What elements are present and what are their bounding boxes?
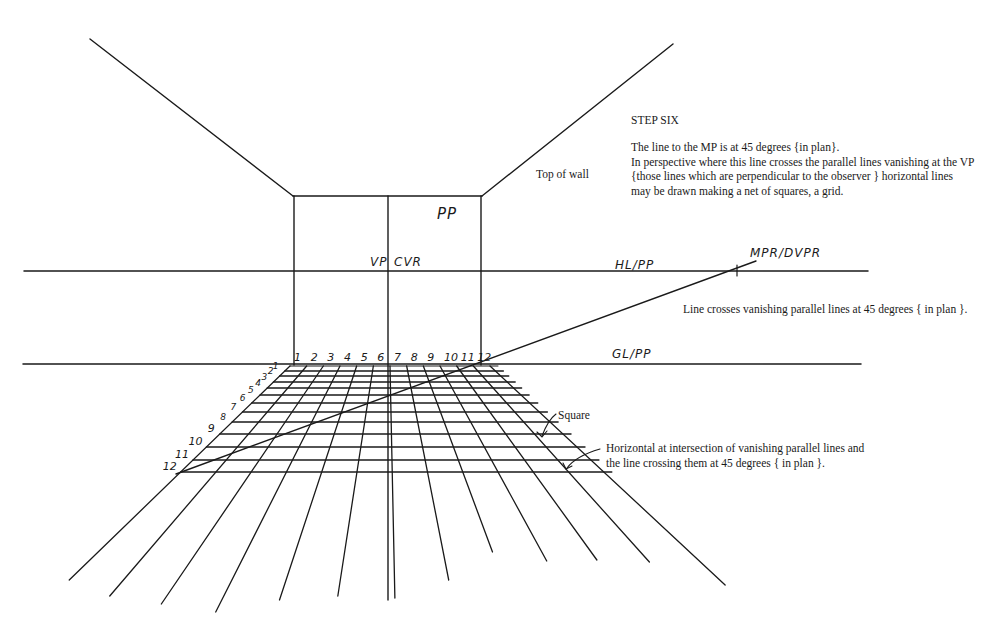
top-number-label: 4: [344, 351, 351, 364]
side-number-label: 10: [188, 435, 202, 448]
side-number-label: 2: [268, 366, 274, 376]
side-number-label: 6: [240, 393, 246, 403]
vanishing-line: [390, 366, 395, 598]
label-hl-pp: HL/PP: [615, 258, 654, 272]
top-number-label: 2: [311, 351, 318, 364]
top-number-label: 9: [427, 351, 434, 364]
perspective-diagram: 123456789101112 123456789101112 PP VP CV…: [0, 0, 990, 642]
side-number-label: 7: [231, 402, 237, 412]
top-number-label: 3: [327, 351, 334, 364]
square-note: Square: [558, 408, 590, 423]
top-number-label: 10: [444, 351, 458, 364]
side-number-label: 4: [255, 378, 261, 388]
top-number-label: 11: [461, 351, 475, 364]
vanishing-line: [423, 366, 492, 552]
vanishing-line: [407, 366, 449, 580]
top-number-label: 7: [394, 351, 401, 364]
paragraph-line: may be drawn making a net of squares, a …: [631, 184, 974, 199]
floor-grid: [69, 366, 725, 612]
horizontal-note: Horizontal at intersection of vanishing …: [606, 441, 864, 470]
vanishing-line: [110, 366, 307, 596]
horizontal-note-line: Horizontal at intersection of vanishing …: [606, 441, 864, 456]
top-of-wall-note: Top of wall: [536, 167, 589, 182]
top-number-label: 8: [411, 351, 418, 364]
label-cvr: CVR: [394, 255, 422, 269]
left-wall-top-line: [90, 39, 293, 196]
label-pp: PP: [437, 205, 457, 223]
paragraph-line: {those lines which are perpendicular to …: [631, 169, 974, 184]
side-number-label: 1: [273, 361, 279, 371]
top-number-labels: 123456789101112: [294, 351, 491, 364]
side-number-label: 12: [163, 460, 177, 473]
label-vp: VP: [370, 255, 387, 269]
label-mpr-dvpr: MPR/DVPR: [750, 246, 821, 260]
side-number-label: 11: [175, 448, 189, 461]
step-title: STEP SIX: [631, 113, 679, 128]
step-paragraph: The line to the MP is at 45 degrees {in …: [631, 140, 974, 198]
top-number-label: 12: [477, 351, 491, 364]
top-number-label: 6: [377, 351, 384, 364]
side-number-label: 9: [208, 422, 215, 435]
side-number-label: 3: [261, 372, 267, 382]
horizontal-arrow-shaft: [567, 449, 600, 468]
vanishing-line: [338, 366, 374, 596]
side-number-label: 5: [248, 385, 254, 395]
vanishing-line: [279, 366, 356, 600]
horizontal-note-line: the line crossing them at 45 degrees { i…: [606, 456, 864, 471]
paragraph-line: In perspective where this line crosses t…: [631, 155, 974, 170]
vanishing-line: [490, 366, 725, 585]
drawing-canvas: 123456789101112 123456789101112: [0, 0, 990, 642]
top-number-label: 5: [361, 351, 368, 364]
side-number-label: 8: [220, 412, 226, 422]
label-gl-pp: GL/PP: [612, 347, 652, 361]
top-number-label: 1: [294, 351, 301, 364]
paragraph-line: The line to the MP is at 45 degrees {in …: [631, 140, 974, 155]
line-crosses-note: Line crosses vanishing parallel lines at…: [683, 302, 967, 317]
